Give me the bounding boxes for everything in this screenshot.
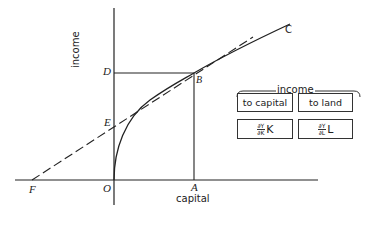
to-land-label: to land [309, 97, 342, 108]
point-label-E: E [104, 116, 111, 128]
box-capital-formula: ∂Y ∂K K [237, 119, 293, 139]
point-label-O: O [103, 182, 111, 194]
land-fraction: ∂Y ∂L [318, 123, 327, 136]
point-label-D: D [103, 65, 111, 77]
fraction-denominator: ∂L [319, 130, 325, 136]
box-to-land: to land [298, 93, 353, 112]
to-capital-label: to capital [243, 97, 287, 108]
x-axis-label: capital [176, 193, 210, 204]
box-land-formula: ∂Y ∂L L [298, 119, 353, 139]
land-variable: L [327, 123, 333, 136]
point-label-F: F [29, 183, 36, 195]
point-label-A: A [191, 181, 198, 193]
box-to-capital: to capital [237, 93, 293, 112]
point-label-C: C [285, 24, 292, 35]
capital-variable: K [266, 123, 273, 136]
tangent-line [32, 37, 253, 180]
y-axis-label: income [70, 28, 81, 68]
capital-fraction: ∂Y ∂K [257, 123, 266, 136]
fraction-denominator: ∂K [257, 130, 264, 136]
point-label-B: B [196, 74, 202, 85]
